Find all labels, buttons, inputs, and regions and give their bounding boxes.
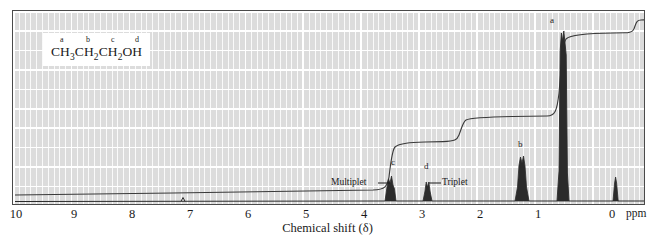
x-axis-unit-label: ppm (626, 207, 646, 219)
annotation-multiplet: Multiplet (331, 177, 366, 187)
peak-tms-singlet (613, 177, 618, 201)
peak-d-triplet (423, 182, 432, 201)
assignment-letters: a b c d (51, 36, 142, 45)
peak-label-a: a (550, 15, 554, 25)
compound-formula: CH3CH2CH2OH (51, 45, 142, 62)
annotation-triplet: Triplet (442, 177, 468, 187)
assignment-letter-b: b (86, 36, 90, 44)
baseline (15, 201, 385, 202)
x-tick-8: 8 (129, 207, 135, 222)
x-tick-3: 3 (419, 207, 425, 222)
peak-label-b: b (518, 139, 523, 149)
assignment-letter-a: a (60, 36, 64, 44)
plot-area: a b c d CH3CH2CH2OH c d b a Multiplet Tr… (12, 10, 645, 205)
x-tick-4: 4 (361, 207, 367, 222)
peak-a-triplet (557, 31, 569, 201)
assignment-letter-c: c (111, 36, 115, 44)
x-axis-title: Chemical shift (δ) (0, 221, 655, 236)
x-tick-2: 2 (477, 207, 483, 222)
peak-label-d: d (424, 161, 429, 171)
formula-part-4: OH (122, 44, 142, 59)
x-tick-10: 10 (10, 207, 23, 222)
x-tick-7: 7 (187, 207, 193, 222)
peak-label-c: c (391, 157, 395, 167)
peak-c-multiplet (385, 176, 396, 201)
formula-part-1: CH (51, 44, 70, 59)
assignment-letter-d: d (135, 36, 139, 44)
x-tick-9: 9 (71, 207, 77, 222)
x-tick-1: 1 (535, 207, 541, 222)
compound-structure-caption: a b c d CH3CH2CH2OH (43, 33, 150, 66)
peak-b-multiplet (515, 156, 529, 201)
nmr-spectrum-figure: a b c d CH3CH2CH2OH c d b a Multiplet Tr… (0, 0, 655, 240)
x-tick-5: 5 (303, 207, 309, 222)
formula-part-2: CH (75, 44, 94, 59)
x-tick-6: 6 (245, 207, 251, 222)
x-tick-0: 0 (609, 207, 615, 222)
formula-part-3: CH (99, 44, 118, 59)
